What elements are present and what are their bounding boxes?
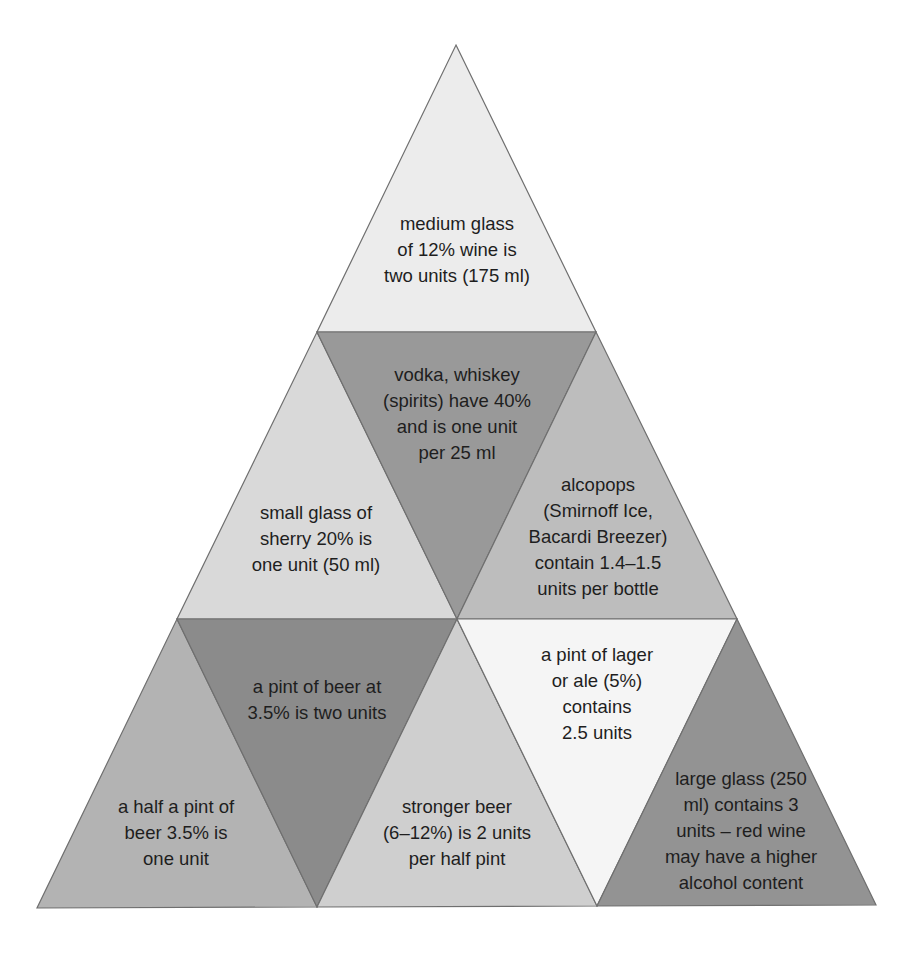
label-stronger-beer: stronger beer (6–12%) is 2 units per hal… bbox=[383, 794, 531, 872]
label-spirits: vodka, whiskey (spirits) have 40% and is… bbox=[383, 362, 531, 466]
label-small-glass-sherry: small glass of sherry 20% is one unit (5… bbox=[252, 500, 381, 578]
label-large-glass-wine: large glass (250 ml) contains 3 units – … bbox=[665, 766, 817, 896]
alcohol-units-pyramid: medium glass of 12% wine is two units (1… bbox=[0, 0, 920, 958]
label-half-pint-beer: a half a pint of beer 3.5% is one unit bbox=[118, 794, 234, 872]
label-alcopops: alcopops (Smirnoff Ice, Bacardi Breezer)… bbox=[529, 472, 668, 602]
label-pint-lager: a pint of lager or ale (5%) contains 2.5… bbox=[541, 642, 653, 746]
label-medium-glass-wine: medium glass of 12% wine is two units (1… bbox=[384, 211, 530, 289]
label-pint-beer: a pint of beer at 3.5% is two units bbox=[248, 674, 387, 726]
